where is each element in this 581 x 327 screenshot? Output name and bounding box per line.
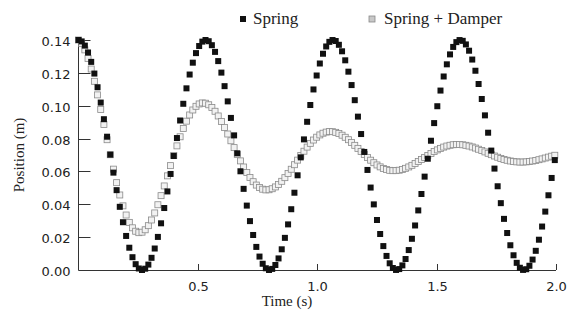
data-point (530, 257, 536, 263)
data-point (126, 245, 132, 251)
data-point (222, 124, 228, 130)
data-point (339, 48, 345, 54)
legend-item-spring-damper: Spring + Damper (369, 9, 503, 28)
data-point (549, 175, 555, 181)
data-point (377, 231, 383, 237)
y-tick-label: 0.08 (42, 133, 71, 148)
data-point (301, 136, 307, 142)
series-spring-damper (76, 37, 558, 236)
data-point (164, 188, 170, 194)
x-tick-label: 0.5 (188, 279, 209, 294)
data-point (349, 82, 355, 88)
data-point (374, 217, 380, 223)
data-point (545, 192, 551, 198)
data-point (295, 172, 301, 178)
legend-label-spring: Spring (253, 9, 299, 28)
data-point (161, 205, 167, 211)
data-point (291, 190, 297, 196)
data-point (279, 246, 285, 252)
data-point (403, 256, 409, 262)
filled-square-marker-icon (240, 16, 246, 22)
data-point (437, 88, 443, 94)
data-point (228, 115, 234, 121)
data-point (234, 150, 240, 156)
data-point (476, 81, 482, 87)
data-point (358, 131, 364, 137)
data-point (285, 221, 291, 227)
data-point (101, 121, 107, 127)
data-point (247, 218, 253, 224)
data-point (212, 49, 218, 55)
data-point (425, 156, 431, 162)
data-point (228, 138, 234, 144)
data-point (114, 187, 120, 193)
data-point (241, 186, 247, 192)
data-point (101, 116, 107, 122)
data-point (361, 149, 367, 155)
data-point (380, 243, 386, 249)
data-point (488, 148, 494, 154)
data-point (342, 57, 348, 63)
data-point (371, 201, 377, 207)
data-point (107, 152, 113, 158)
data-point (504, 230, 510, 236)
data-point (158, 220, 164, 226)
data-point (149, 255, 155, 261)
data-point (155, 234, 161, 240)
data-point (552, 157, 558, 163)
position-time-chart: Spring Spring + Damper 0.000.020.040.060… (0, 0, 581, 327)
data-point (114, 180, 120, 186)
data-point (145, 223, 151, 229)
data-point (237, 158, 243, 164)
data-point (237, 168, 243, 174)
data-point (152, 210, 158, 216)
data-point (314, 72, 320, 78)
data-point (307, 102, 313, 108)
data-point (463, 41, 469, 47)
y-tick-label: 0.06 (42, 165, 71, 180)
x-axis-title: Time (s) (262, 293, 313, 310)
data-point (472, 68, 478, 74)
data-point (422, 174, 428, 180)
data-point (193, 50, 199, 56)
data-point (149, 217, 155, 223)
data-point (177, 117, 183, 123)
data-point (145, 262, 151, 268)
data-point (168, 163, 174, 169)
data-point (168, 171, 174, 177)
data-point (355, 114, 361, 120)
data-point (110, 170, 116, 176)
data-point (256, 254, 262, 260)
y-tick-label: 0.10 (42, 100, 71, 115)
data-point (104, 134, 110, 140)
y-tick-label: 0.00 (42, 264, 71, 279)
data-point (123, 212, 129, 218)
data-point (498, 200, 504, 206)
data-point (431, 120, 437, 126)
data-point (368, 185, 374, 191)
data-point (482, 112, 488, 118)
data-point (91, 71, 97, 77)
data-point (225, 131, 231, 137)
data-point (447, 51, 453, 57)
data-point (469, 57, 475, 63)
data-point (152, 246, 158, 252)
data-point (412, 222, 418, 228)
data-point (418, 191, 424, 197)
data-point (320, 51, 326, 57)
data-point (91, 78, 97, 84)
data-point (180, 125, 186, 131)
data-point (441, 73, 447, 79)
data-point (218, 118, 224, 124)
data-point (310, 86, 316, 92)
data-point (95, 84, 101, 90)
data-point (526, 263, 532, 269)
data-point (183, 118, 189, 124)
data-point (231, 145, 237, 151)
y-axis-title: Position (m) (11, 118, 28, 193)
data-point (88, 59, 94, 65)
data-point (244, 203, 250, 209)
x-tick-label: 1.5 (427, 279, 448, 294)
data-point (317, 61, 323, 67)
data-point (95, 92, 101, 98)
